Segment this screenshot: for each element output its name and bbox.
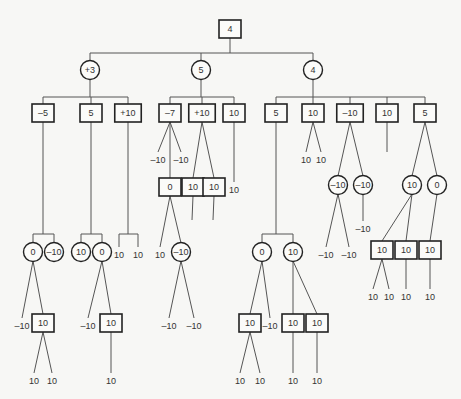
tree-edge [160, 196, 170, 247]
tree-edge [240, 332, 250, 373]
min-node: –10 [45, 243, 64, 262]
tree-edge [22, 261, 33, 318]
leaf-value: 10 [133, 250, 143, 260]
tree-edge [88, 261, 102, 318]
max-node: 10 [203, 178, 225, 196]
min-node: –10 [354, 176, 373, 195]
node-value: 5 [422, 108, 427, 118]
leaf-value: 10 [114, 250, 124, 260]
node-value: 10 [188, 182, 198, 192]
max-node: +10 [115, 104, 142, 122]
node-value: –10 [330, 180, 345, 190]
leaf-value: 10 [425, 292, 435, 302]
tree-edge [170, 122, 181, 152]
max-node: 10 [419, 241, 441, 259]
node-value: 10 [425, 245, 435, 255]
leaf-value: –10 [161, 321, 176, 331]
max-node: 10 [223, 104, 245, 122]
tree-edge [34, 332, 43, 373]
tree-edge [169, 261, 181, 318]
tree-edge [338, 194, 349, 247]
tree-edge [43, 332, 52, 373]
tree-edge [250, 261, 262, 314]
node-value: –10 [46, 247, 61, 257]
max-node: 10 [32, 314, 54, 332]
min-node: 4 [304, 61, 323, 80]
tree-edge [102, 261, 111, 314]
tree-edge [170, 196, 181, 243]
max-node: 10 [371, 241, 393, 259]
leaf-value: –10 [186, 321, 201, 331]
node-value: 10 [106, 318, 116, 328]
leaf-value: –10 [14, 321, 29, 331]
leaf-value: –10 [341, 250, 356, 260]
node-value: +10 [194, 108, 209, 118]
min-node: 0 [93, 243, 112, 262]
min-node: 10 [284, 243, 303, 262]
node-value: –7 [165, 108, 175, 118]
tree-edge [373, 259, 382, 289]
min-node: 10 [403, 176, 422, 195]
node-value: 4 [310, 65, 315, 75]
tree-edge [430, 194, 437, 241]
node-value: –5 [38, 108, 48, 118]
max-node: –5 [32, 104, 54, 122]
leaf-value: 10 [312, 376, 322, 386]
tree-edge [202, 122, 214, 178]
leaf-value: –10 [262, 321, 277, 331]
leaf-value: –10 [173, 155, 188, 165]
leaf-value: 10 [106, 376, 116, 386]
min-node: 0 [428, 176, 447, 195]
leaf-value: 10 [288, 376, 298, 386]
leaf-value: 10 [29, 376, 39, 386]
node-value: 10 [308, 108, 318, 118]
node-value: 0 [30, 247, 35, 257]
leaf-value: 10 [316, 155, 326, 165]
node-value: 4 [227, 24, 232, 34]
tree-edge [293, 261, 317, 314]
min-node: +3 [81, 61, 100, 80]
min-node: –10 [329, 176, 348, 195]
max-node: 10 [282, 314, 304, 332]
min-node: 5 [192, 61, 211, 80]
node-value: 5 [88, 108, 93, 118]
tree-edge [192, 196, 193, 220]
min-node: 10 [72, 243, 91, 262]
max-node: 10 [302, 104, 324, 122]
max-node: 5 [80, 104, 102, 122]
max-node: 10 [306, 314, 328, 332]
max-node: 10 [182, 178, 204, 196]
tree-edge [313, 122, 321, 152]
leaf-value: –10 [318, 250, 333, 260]
tree-edge [425, 122, 437, 176]
node-value: 0 [434, 180, 439, 190]
leaf-value: 10 [301, 155, 311, 165]
node-value: 10 [407, 180, 417, 190]
leaf-value: 10 [384, 292, 394, 302]
tree-edge [382, 259, 389, 289]
tree-edge [181, 261, 194, 318]
node-value: 10 [229, 108, 239, 118]
leaf-value: 10 [47, 376, 57, 386]
tree-edge [213, 196, 214, 220]
node-value: 10 [382, 108, 392, 118]
node-value: 10 [38, 318, 48, 328]
tree-edge [382, 194, 412, 241]
max-node: 5 [265, 104, 287, 122]
leaf-value: 10 [401, 292, 411, 302]
max-node: 10 [395, 241, 417, 259]
node-value: 10 [245, 318, 255, 328]
node-value: –10 [355, 180, 370, 190]
node-value: 10 [312, 318, 322, 328]
tree-edge [193, 122, 202, 178]
tree-edge [158, 122, 170, 152]
tree-edge [412, 122, 425, 176]
node-value: 10 [209, 182, 219, 192]
node-value: –10 [342, 108, 357, 118]
max-node: 5 [414, 104, 436, 122]
leaf-value: 10 [368, 292, 378, 302]
node-value: 10 [288, 318, 298, 328]
node-value: 10 [76, 247, 86, 257]
node-value: 0 [167, 182, 172, 192]
max-node: +10 [189, 104, 216, 122]
